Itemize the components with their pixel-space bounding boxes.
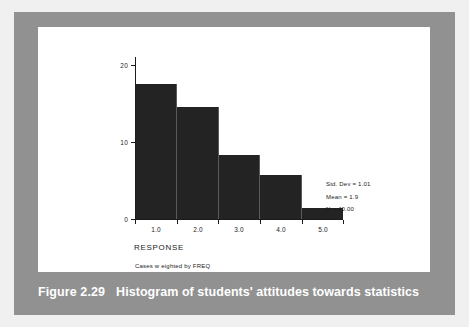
x-axis-line [135,219,343,220]
figure-caption: Figure 2.29 Histogram of students' attit… [38,280,438,304]
statistics-annotations: Std. Dev = 1.01 Mean = 1.9 N = 40.00 [326,178,371,216]
figure-panel: 0 10 20 1.0 2.0 3.0 4.0 5.0 Std. Dev = 1… [14,12,455,315]
y-tick-mark-20 [131,65,136,66]
x-tick-mark-edge-3 [260,220,261,224]
x-axis-title: RESPONSE [134,243,184,252]
n-annotation: N = 40.00 [326,203,371,216]
histogram-bar-4 [260,175,302,219]
histogram-bar-1 [136,84,177,219]
figure-caption-number: Figure 2.29 [38,285,105,299]
histogram-plot: 0 10 20 1.0 2.0 3.0 4.0 5.0 Std. Dev = 1… [38,27,430,272]
x-tick-label-4: 4.0 [268,226,294,233]
x-tick-label-1: 1.0 [143,226,169,233]
x-tick-label-5: 5.0 [310,226,336,233]
x-tick-mark-edge-0 [135,220,136,224]
y-tick-label-10: 10 [94,139,128,146]
histogram-bar-3 [219,155,260,219]
x-tick-mark-edge-2 [218,220,219,224]
figure-caption-title: Histogram of students' attitudes towards… [116,285,419,299]
mean-annotation: Mean = 1.9 [326,191,371,204]
x-tick-label-3: 3.0 [226,226,252,233]
x-tick-mark-edge-4 [302,220,303,224]
y-tick-label-0: 0 [94,216,128,223]
y-tick-label-20: 20 [94,62,128,69]
x-tick-label-2: 2.0 [185,226,211,233]
x-tick-mark-edge-5 [343,220,344,224]
chart-card: 0 10 20 1.0 2.0 3.0 4.0 5.0 Std. Dev = 1… [38,27,430,272]
chart-footnote: Cases w eighted by FREQ [135,263,210,269]
histogram-bar-2 [177,107,219,219]
x-tick-mark-edge-1 [177,220,178,224]
std-dev-annotation: Std. Dev = 1.01 [326,178,371,191]
